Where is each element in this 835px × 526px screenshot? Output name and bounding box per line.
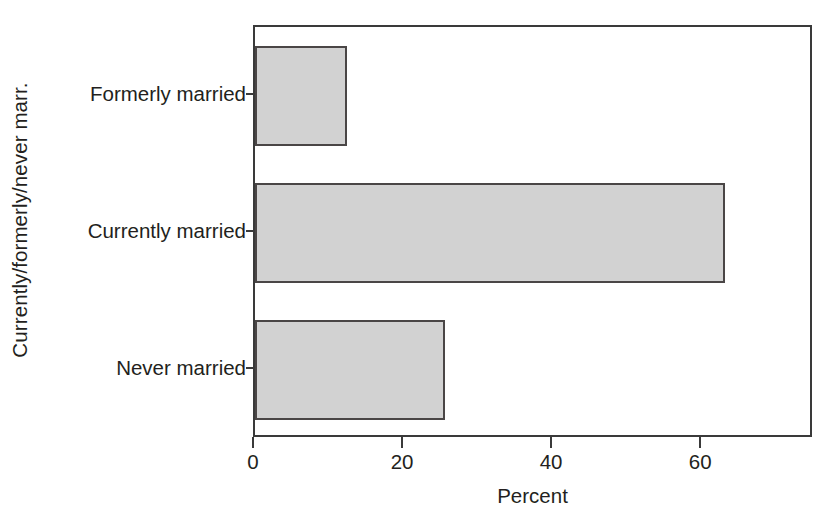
bar — [255, 183, 725, 283]
y-axis-tick-label: Never married — [40, 356, 246, 380]
bar — [255, 46, 347, 146]
x-axis-tick-mark — [252, 437, 254, 448]
x-axis-title: Percent — [253, 484, 812, 508]
y-axis-title-container: Currently/formerly/never marr. — [0, 0, 40, 440]
y-axis-tick-label: Formerly married — [40, 82, 246, 106]
x-axis-tick-label: 0 — [247, 450, 258, 474]
bar — [255, 320, 445, 420]
x-axis-tick-label: 20 — [391, 450, 414, 474]
x-axis-tick-label: 40 — [540, 450, 563, 474]
y-axis-title: Currently/formerly/never marr. — [8, 82, 32, 357]
x-axis-tick-mark — [550, 437, 552, 448]
plot-area — [253, 25, 812, 437]
x-axis-tick-mark — [699, 437, 701, 448]
x-axis-tick-label: 60 — [689, 450, 712, 474]
y-axis-tick-label: Currently married — [40, 219, 246, 243]
x-axis-tick-mark — [401, 437, 403, 448]
bar-chart-figure: Currently/formerly/never marr. Never mar… — [0, 0, 835, 526]
